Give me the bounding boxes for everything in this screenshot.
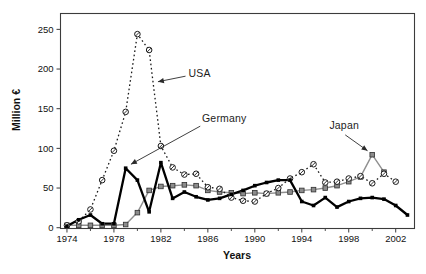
- germany-square-marker: [206, 198, 210, 202]
- series-label-germany: Germany: [202, 112, 247, 124]
- germany-square-marker: [347, 200, 351, 204]
- x-tick-label: 1974: [56, 233, 77, 244]
- y-tick-label: 50: [43, 182, 54, 193]
- germany-square-marker: [65, 224, 69, 228]
- series-japan-markers: [65, 152, 387, 227]
- germany-square-marker: [89, 213, 93, 217]
- germany-square-marker: [136, 178, 140, 182]
- y-tick-label: 250: [38, 24, 54, 35]
- germany-square-marker: [323, 196, 327, 200]
- series-germany-line: [67, 163, 408, 226]
- japan-square-marker: [135, 210, 140, 215]
- x-tick-label: 1998: [338, 233, 359, 244]
- germany-square-marker: [394, 204, 398, 208]
- japan-square-marker: [253, 190, 258, 195]
- germany-square-marker: [112, 222, 116, 226]
- annotation-arrowhead: [361, 145, 367, 151]
- germany-square-marker: [241, 189, 245, 193]
- x-tick-label: 1982: [150, 233, 171, 244]
- germany-square-marker: [406, 213, 410, 217]
- germany-square-marker: [312, 204, 316, 208]
- germany-square-marker: [277, 178, 281, 182]
- y-tick-label: 100: [38, 143, 54, 154]
- germany-square-marker: [171, 197, 175, 201]
- chart-figure: 0501001502002501974197819821986199019941…: [0, 0, 426, 274]
- germany-square-marker: [300, 200, 304, 204]
- x-axis-title: Years: [223, 249, 251, 261]
- japan-square-marker: [311, 187, 316, 192]
- germany-square-marker: [218, 197, 222, 201]
- x-tick-label: 1986: [197, 233, 218, 244]
- japan-square-marker: [147, 188, 152, 193]
- germany-square-marker: [77, 218, 81, 222]
- germany-square-marker: [335, 205, 339, 209]
- japan-square-marker: [194, 183, 199, 188]
- japan-square-marker: [159, 184, 164, 189]
- y-axis-title: Million €: [10, 89, 22, 131]
- germany-square-marker: [183, 190, 187, 194]
- japan-square-marker: [182, 183, 187, 188]
- japan-square-marker: [123, 222, 128, 227]
- x-tick-label: 1990: [244, 233, 265, 244]
- japan-square-marker: [370, 152, 375, 157]
- series-label-usa: USA: [188, 67, 210, 79]
- germany-square-marker: [147, 210, 151, 214]
- x-tick-label: 1994: [291, 233, 312, 244]
- germany-square-marker: [359, 197, 363, 201]
- germany-square-marker: [159, 161, 163, 165]
- x-tick-label: 1978: [103, 233, 124, 244]
- japan-square-marker: [288, 190, 293, 195]
- y-tick-label: 150: [38, 103, 54, 114]
- japan-square-marker: [299, 188, 304, 193]
- germany-square-marker: [253, 184, 257, 188]
- x-tick-label: 2002: [385, 233, 406, 244]
- germany-square-marker: [370, 196, 374, 200]
- germany-square-marker: [382, 197, 386, 201]
- series-japan-line: [67, 155, 384, 226]
- y-tick-label: 200: [38, 63, 54, 74]
- annotation-arrowhead: [158, 78, 164, 83]
- germany-square-marker: [100, 222, 104, 226]
- annotation-arrow-line: [131, 126, 200, 164]
- japan-square-marker: [323, 186, 328, 191]
- germany-square-marker: [265, 181, 269, 185]
- series-label-japan: Japan: [329, 120, 359, 132]
- line-chart-canvas: 0501001502002501974197819821986199019941…: [0, 0, 426, 274]
- japan-square-marker: [88, 223, 93, 228]
- y-tick-label: 0: [48, 222, 53, 233]
- germany-square-marker: [230, 193, 234, 197]
- japan-square-marker: [170, 183, 175, 188]
- germany-square-marker: [194, 195, 198, 199]
- germany-square-marker: [124, 166, 128, 170]
- germany-square-marker: [288, 178, 292, 182]
- series-germany-markers: [65, 161, 409, 228]
